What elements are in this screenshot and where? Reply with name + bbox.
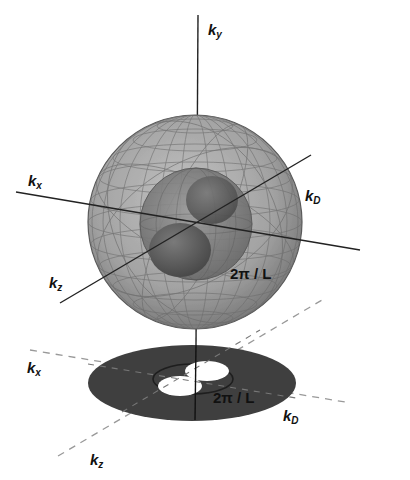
label-kz: kz <box>49 275 62 293</box>
label-kD: kD <box>305 188 321 206</box>
label-kz-2d: kz <box>90 452 103 470</box>
ky-axis-lower <box>195 345 196 420</box>
projected-disk <box>88 330 296 421</box>
label-kD-2d: kD <box>283 408 299 426</box>
label-inner-radius: 2π / L <box>230 266 272 281</box>
core-lobe-upper <box>186 176 238 224</box>
core-lobe-lower <box>149 223 211 277</box>
inner-sphere <box>140 168 252 280</box>
label-ky: ky <box>208 22 222 40</box>
label-inner-radius-2d: 2π / L <box>213 390 255 405</box>
label-kx-2d: kx <box>27 360 41 378</box>
diagram-canvas <box>0 0 410 480</box>
label-kx: kx <box>28 173 42 191</box>
